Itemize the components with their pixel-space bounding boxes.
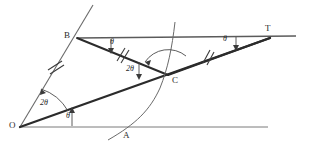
angle-label-theta-at-B: θ	[110, 38, 114, 46]
point-label-O: O	[9, 121, 16, 130]
segment-BC	[77, 38, 168, 75]
angle-2theta-at-C-arrowhead-down	[136, 74, 142, 80]
point-label-A: A	[123, 131, 130, 140]
point-label-C: C	[172, 76, 178, 85]
ray-OB-extended	[20, 5, 93, 127]
angle-label-2theta-at-C: 2θ	[126, 65, 134, 73]
geometry-canvas	[0, 0, 310, 152]
angle-label-2theta-at-O: 2θ	[40, 99, 48, 107]
point-label-B: B	[64, 31, 70, 40]
geometry-figure: O B C T A 2θ θ θ 2θ θ	[0, 0, 310, 152]
segment-CT	[168, 38, 270, 75]
angle-label-theta-at-O: θ	[66, 112, 70, 120]
angle-arc-at-C	[145, 50, 186, 62]
construction-arc-through-A-C	[108, 22, 175, 140]
angle-label-theta-at-T: θ	[223, 35, 227, 43]
point-label-T: T	[265, 24, 271, 33]
